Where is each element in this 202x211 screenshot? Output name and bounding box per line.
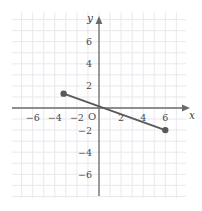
origin-label: O <box>88 111 96 122</box>
y-tick-label: 4 <box>86 58 92 69</box>
y-tick-label: 2 <box>86 80 92 91</box>
y-tick-label: −4 <box>78 147 92 158</box>
coordinate-plane-svg: −6−4−2246 642−2−4−6 O x y <box>0 0 202 211</box>
y-tick-label: 6 <box>86 36 92 47</box>
x-axis-label: x <box>189 109 195 121</box>
y-axis-label: y <box>86 12 94 24</box>
figure-background <box>0 0 202 211</box>
right-endpoint <box>162 127 168 133</box>
y-tick-label: −2 <box>78 125 92 136</box>
left-endpoint <box>60 90 66 96</box>
x-tick-label: −6 <box>26 112 40 123</box>
graph-figure: −6−4−2246 642−2−4−6 O x y <box>0 0 202 211</box>
x-tick-label: 6 <box>162 112 168 123</box>
y-tick-label: −6 <box>78 169 92 180</box>
x-tick-label: −2 <box>70 112 84 123</box>
x-tick-label: −4 <box>48 112 62 123</box>
